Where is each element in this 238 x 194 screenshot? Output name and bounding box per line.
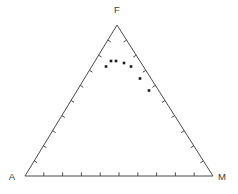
data-point [130, 65, 133, 68]
data-point [123, 62, 126, 65]
vertex-label-M: M [218, 171, 226, 182]
data-point [115, 60, 118, 63]
ternary-plot-canvas: F A M [0, 0, 238, 194]
vertex-label-A: A [9, 171, 16, 182]
ternary-diagram-figure: F A M [0, 0, 238, 194]
data-point [148, 89, 151, 92]
data-point [139, 77, 142, 80]
plot-background [0, 0, 238, 194]
vertex-label-F: F [114, 4, 120, 15]
data-point [110, 60, 113, 63]
data-point [105, 65, 108, 68]
